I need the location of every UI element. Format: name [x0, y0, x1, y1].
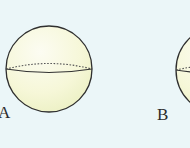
sphere-a-label: A: [0, 104, 10, 121]
spheres-drawing: [0, 0, 190, 148]
sphere-b: [176, 26, 190, 114]
sphere-a: [6, 26, 92, 112]
sphere-b-label: B: [157, 106, 168, 123]
spheres-figure: A B: [0, 0, 190, 148]
sphere-a-outline: [6, 26, 92, 112]
